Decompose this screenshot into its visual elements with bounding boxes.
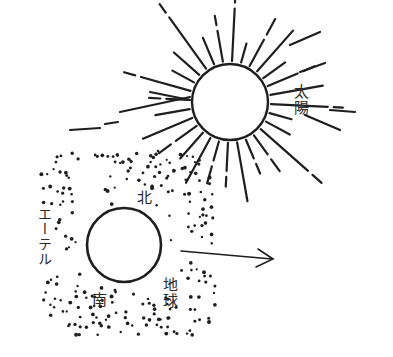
diagram-svg <box>0 0 393 357</box>
north-label: 北 <box>137 190 152 206</box>
earth-label: 地球 <box>161 277 177 309</box>
motion-arrow <box>181 249 273 267</box>
diagram-canvas: 太陽 北 南 地球 エーテル <box>0 0 393 357</box>
sun-circle <box>192 64 268 140</box>
ether-label: エーテル <box>36 207 51 267</box>
earth-circle <box>87 208 161 282</box>
sun-label: 太陽 <box>292 84 308 116</box>
south-label: 南 <box>92 292 107 308</box>
